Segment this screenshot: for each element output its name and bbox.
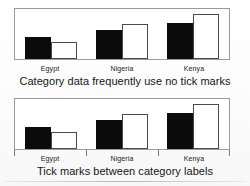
figure-page: Egypt Nigeria Kenya Category data freque…	[0, 0, 250, 186]
bar-kenya-dark-top	[167, 23, 193, 59]
bar-egypt-dark-top	[25, 37, 51, 60]
bar-nigeria-light-bottom	[122, 114, 148, 149]
category-label-kenya-top: Kenya	[158, 65, 230, 72]
bar-group-egypt-bottom	[15, 99, 86, 149]
bar-kenya-light-bottom	[193, 104, 219, 149]
plot-frame-top	[14, 8, 230, 60]
plot-frame-bottom	[14, 98, 230, 150]
category-label-egypt-bottom: Egypt	[14, 155, 86, 162]
bar-egypt-dark-bottom	[25, 127, 51, 150]
bar-group-kenya-top	[158, 9, 229, 59]
caption-top: Category data frequently use no tick mar…	[0, 75, 250, 87]
panel-no-tick-marks: Egypt Nigeria Kenya Category data freque…	[0, 0, 250, 93]
page-bottom-rule	[4, 181, 246, 182]
bar-kenya-dark-bottom	[167, 113, 193, 149]
bar-group-kenya-bottom	[158, 99, 229, 149]
category-labels-bottom: Egypt Nigeria Kenya	[14, 155, 230, 162]
bar-nigeria-dark-top	[96, 30, 122, 59]
bar-group-nigeria-top	[86, 9, 157, 59]
category-label-kenya-bottom: Kenya	[158, 155, 230, 162]
bar-groups-bottom	[15, 99, 229, 149]
category-label-egypt-top: Egypt	[14, 65, 86, 72]
category-label-nigeria-top: Nigeria	[86, 65, 158, 72]
category-label-nigeria-bottom: Nigeria	[86, 155, 158, 162]
bar-groups-top	[15, 9, 229, 59]
bar-group-nigeria-bottom	[86, 99, 157, 149]
bar-group-egypt-top	[15, 9, 86, 59]
bar-nigeria-light-top	[122, 24, 148, 59]
bar-nigeria-dark-bottom	[96, 120, 122, 149]
bar-egypt-light-bottom	[51, 132, 77, 149]
caption-bottom: Tick marks between category labels	[0, 165, 250, 177]
bar-egypt-light-top	[51, 42, 77, 59]
panel-tick-marks-between-labels: Egypt Nigeria Kenya Tick marks between c…	[0, 93, 250, 186]
bar-kenya-light-top	[193, 14, 219, 59]
category-labels-top: Egypt Nigeria Kenya	[14, 65, 230, 72]
